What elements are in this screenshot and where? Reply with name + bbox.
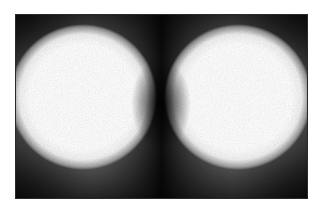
central-waist [131,58,191,150]
figure-root: Two large white circular lobes separated… [0,0,323,209]
tone-field [15,14,308,199]
halftone-plate [15,14,308,199]
